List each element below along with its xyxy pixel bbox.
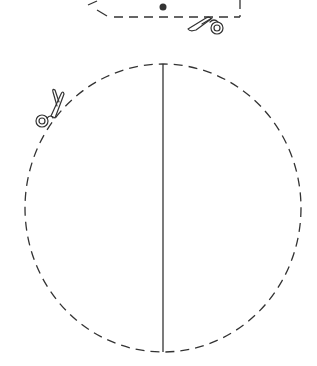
- scissors-icon: [188, 17, 223, 34]
- paper-cutting-diagram: [0, 0, 317, 366]
- folded-paper-shape: [88, 0, 240, 17]
- cut-edge-segment: [88, 1, 97, 5]
- cut-edge-segment: [97, 10, 107, 16]
- center-dot: [160, 4, 167, 11]
- scissors-icon: [36, 89, 64, 127]
- unfolded-circle: [25, 64, 301, 352]
